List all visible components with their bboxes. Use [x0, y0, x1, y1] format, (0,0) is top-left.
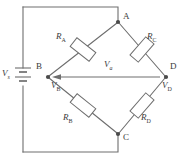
node-dot-D — [164, 75, 168, 79]
resistor-RA-body — [70, 38, 96, 61]
node-label-B: B — [36, 62, 42, 71]
measurement-label-Va: Va — [104, 60, 113, 71]
resistor-RB-body — [70, 94, 96, 118]
circuit-schematic-svg — [0, 0, 185, 166]
potential-label-VB: VB — [51, 81, 61, 92]
source-loop-wires — [23, 7, 118, 152]
potential-label-VD: VD — [162, 81, 172, 92]
bridge-arrow-head — [52, 74, 61, 80]
node-label-C: C — [123, 133, 129, 142]
wire-bottom-rail — [23, 134, 118, 152]
resistor-label-RB: RB — [63, 113, 73, 124]
bridge-voltage-arrow — [52, 74, 160, 80]
node-dot-A — [116, 20, 120, 24]
resistor-label-RD: RD — [141, 113, 151, 124]
node-label-D: D — [170, 62, 177, 71]
wire-top-rail — [23, 7, 118, 22]
resistor-label-RB-subscript: B — [69, 118, 73, 124]
node-label-A: A — [123, 12, 130, 21]
source-label-Vs-subscript: s — [8, 74, 10, 80]
resistor-label-RC-subscript: C — [153, 37, 157, 43]
circuit-diagram: A B C D RA RC RB RD Vs VB VD Va — [0, 0, 185, 166]
source-label-Vs: Vs — [2, 69, 10, 80]
node-dot-C — [116, 132, 120, 136]
measurement-label-Va-subscript: a — [110, 65, 113, 71]
potential-label-VD-subscript: D — [168, 86, 172, 92]
node-dot-B — [46, 75, 50, 79]
resistor-label-RC: RC — [147, 32, 157, 43]
resistor-label-RA-subscript: A — [62, 37, 66, 43]
resistor-label-RD-subscript: D — [147, 118, 151, 124]
potential-label-VB-subscript: B — [57, 86, 61, 92]
resistor-label-RA: RA — [56, 32, 66, 43]
battery-symbol — [15, 68, 31, 81]
